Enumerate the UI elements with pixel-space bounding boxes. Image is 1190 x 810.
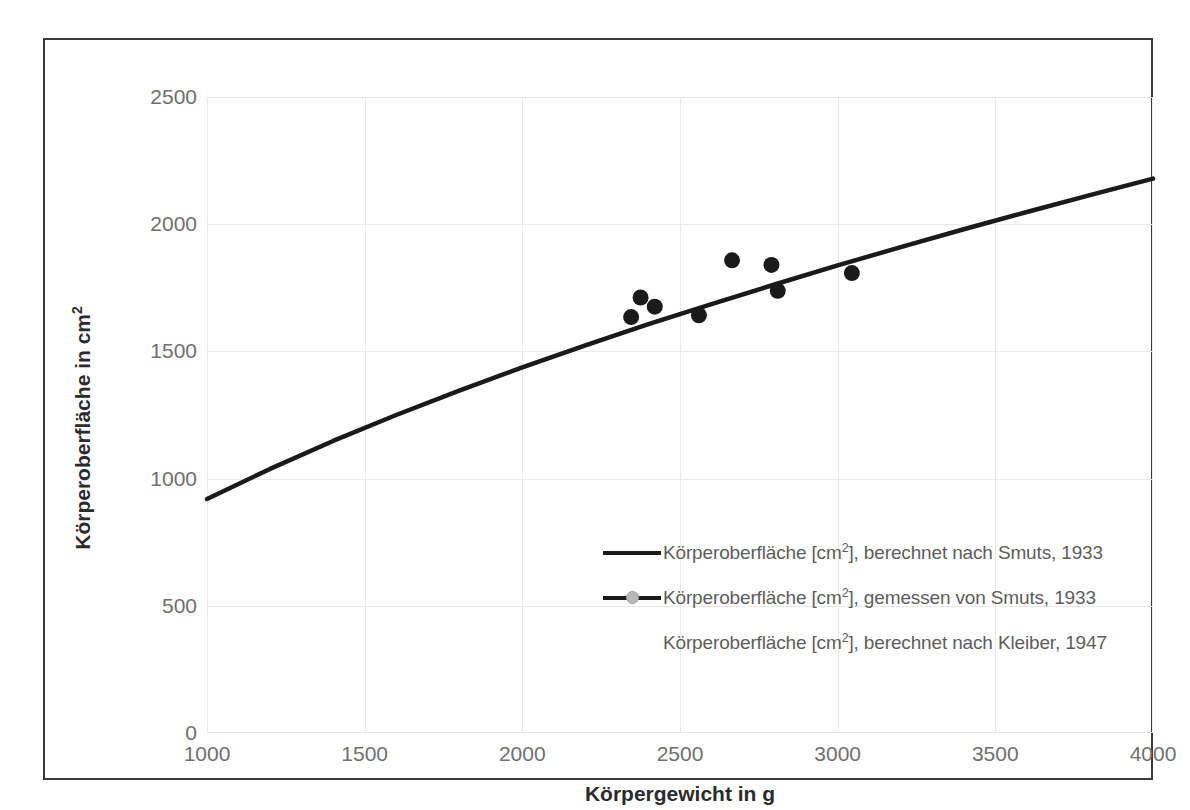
series-points-smuts-measured — [623, 252, 860, 325]
y-axis-title-superscript: 2 — [69, 306, 85, 314]
legend-label-suffix: ], gemessen von Smuts, 1933 — [848, 587, 1095, 608]
data-point — [647, 299, 663, 315]
data-point — [724, 252, 740, 268]
legend-item-kleiber-calculated[interactable]: Körperoberfläche [cm2], berechnet nach K… — [601, 620, 1161, 665]
x-tick-1000: 1000 — [184, 742, 231, 766]
legend-label-suffix: ], berechnet nach Smuts, 1933 — [848, 542, 1102, 563]
x-tick-3500: 3500 — [972, 742, 1019, 766]
chart-figure: 2500 2000 1500 1000 500 0 1000 1500 2000… — [0, 0, 1190, 810]
y-axis-ticks: 2500 2000 1500 1000 500 0 — [140, 97, 197, 733]
data-point — [623, 309, 639, 325]
chart-legend: Körperoberfläche [cm2], berechnet nach S… — [601, 530, 1161, 665]
legend-key-solid-line — [601, 543, 663, 563]
x-tick-2500: 2500 — [657, 742, 704, 766]
legend-label-suffix: ], berechnet nach Kleiber, 1947 — [848, 632, 1106, 653]
x-tick-4000: 4000 — [1130, 742, 1177, 766]
y-tick-2500: 2500 — [150, 85, 197, 109]
x-tick-1500: 1500 — [341, 742, 388, 766]
data-point — [763, 257, 779, 273]
series-line-smuts-calculated — [207, 179, 1153, 499]
data-point — [770, 283, 786, 299]
y-axis-title-text: Körperoberfläche in cm — [71, 314, 94, 550]
x-axis-title: Körpergewicht in g — [207, 782, 1153, 806]
legend-label-kleiber-calculated: Körperoberfläche [cm2], berechnet nach K… — [663, 631, 1107, 654]
legend-label-prefix: Körperoberfläche [cm — [663, 632, 842, 653]
y-tick-1000: 1000 — [150, 467, 197, 491]
data-point — [691, 307, 707, 323]
legend-item-smuts-measured[interactable]: Körperoberfläche [cm2], gemessen von Smu… — [601, 575, 1161, 620]
legend-label-smuts-calculated: Körperoberfläche [cm2], berechnet nach S… — [663, 541, 1103, 564]
y-tick-500: 500 — [162, 594, 197, 618]
chart-frame: 2500 2000 1500 1000 500 0 1000 1500 2000… — [43, 38, 1153, 780]
y-axis-title: Körperoberfläche in cm2 — [69, 178, 95, 678]
legend-label-prefix: Körperoberfläche [cm — [663, 542, 842, 563]
data-point — [844, 265, 860, 281]
legend-label-smuts-measured: Körperoberfläche [cm2], gemessen von Smu… — [663, 586, 1096, 609]
y-tick-2000: 2000 — [150, 212, 197, 236]
x-tick-2000: 2000 — [499, 742, 546, 766]
legend-label-prefix: Körperoberfläche [cm — [663, 587, 842, 608]
data-point — [633, 289, 649, 305]
legend-key-line-with-marker — [601, 588, 663, 608]
legend-item-smuts-calculated[interactable]: Körperoberfläche [cm2], berechnet nach S… — [601, 530, 1161, 575]
x-tick-3000: 3000 — [814, 742, 861, 766]
x-axis-ticks: 1000 1500 2000 2500 3000 3500 4000 — [207, 742, 1153, 774]
legend-marker-circle-icon — [626, 591, 639, 604]
y-tick-1500: 1500 — [150, 339, 197, 363]
legend-key-blank — [601, 633, 663, 653]
